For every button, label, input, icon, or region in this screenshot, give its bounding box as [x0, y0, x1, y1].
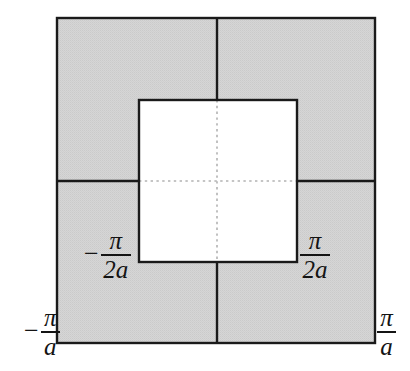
fraction-pi-over-a: π a: [377, 305, 396, 359]
fraction-denominator: 2a: [301, 257, 330, 282]
fraction-neg-pi-over-a: π a: [41, 305, 60, 359]
fraction-numerator: π: [107, 228, 124, 253]
fraction-denominator: 2a: [101, 257, 130, 282]
minus-sign: −: [24, 318, 39, 344]
minus-sign: −: [84, 241, 99, 267]
axis-label-pi-over-a: π a: [377, 305, 396, 359]
axis-label-neg-pi-over-a: − π a: [24, 305, 60, 359]
figure-container: − π a π a − π 2a π 2a: [0, 0, 410, 371]
fraction-numerator: π: [42, 305, 59, 330]
fraction-neg-pi-over-2a: π 2a: [101, 228, 131, 282]
axis-label-neg-pi-over-2a: − π 2a: [84, 228, 131, 282]
axis-label-pi-over-2a: π 2a: [300, 228, 330, 282]
fraction-numerator: π: [307, 228, 324, 253]
fraction-pi-over-2a: π 2a: [300, 228, 330, 282]
fraction-denominator: a: [378, 334, 395, 359]
fraction-denominator: a: [42, 334, 59, 359]
brillouin-zone-figure: [0, 0, 410, 371]
fraction-numerator: π: [378, 305, 395, 330]
